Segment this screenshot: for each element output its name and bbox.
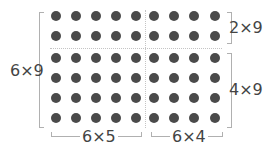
dot	[131, 31, 141, 41]
dot	[149, 113, 159, 123]
dot	[149, 73, 159, 83]
label-6x5: 6×5	[80, 129, 118, 145]
dot	[51, 53, 61, 63]
dot	[111, 93, 121, 103]
label-6x9: 6×9	[10, 63, 44, 79]
dot	[189, 113, 199, 123]
dot	[131, 11, 141, 21]
dot	[210, 113, 220, 123]
dot	[111, 31, 121, 41]
dot	[149, 31, 159, 41]
dot	[51, 31, 61, 41]
dot	[111, 73, 121, 83]
dot	[189, 53, 199, 63]
dot	[51, 11, 61, 21]
dot	[210, 31, 220, 41]
dot	[131, 53, 141, 63]
dot	[91, 113, 101, 123]
dot	[189, 31, 199, 41]
dot	[91, 31, 101, 41]
dot	[169, 93, 179, 103]
dot	[111, 11, 121, 21]
dot	[210, 11, 220, 21]
horizontal-split-line	[50, 48, 222, 49]
dot	[169, 73, 179, 83]
label-6x4: 6×4	[170, 129, 208, 145]
dot	[91, 11, 101, 21]
dot	[71, 11, 81, 21]
dot	[51, 113, 61, 123]
dot	[210, 73, 220, 83]
dot	[149, 53, 159, 63]
dot	[131, 93, 141, 103]
dot	[189, 73, 199, 83]
label-2x9: 2×9	[229, 20, 263, 36]
dot	[169, 11, 179, 21]
dot	[51, 73, 61, 83]
dot	[91, 53, 101, 63]
dot	[189, 11, 199, 21]
dot	[111, 53, 121, 63]
dot	[91, 93, 101, 103]
dot	[91, 73, 101, 83]
dot	[71, 53, 81, 63]
dot	[169, 53, 179, 63]
dot	[71, 93, 81, 103]
dot	[149, 93, 159, 103]
vertical-split-line	[145, 10, 146, 128]
dot	[210, 53, 220, 63]
dot	[71, 31, 81, 41]
dot	[71, 73, 81, 83]
dot	[210, 93, 220, 103]
dot	[149, 11, 159, 21]
dot	[111, 113, 121, 123]
dot	[169, 31, 179, 41]
dot	[71, 113, 81, 123]
dot	[131, 113, 141, 123]
dot	[51, 93, 61, 103]
dot	[169, 113, 179, 123]
dot	[189, 93, 199, 103]
dot	[131, 73, 141, 83]
label-4x9: 4×9	[229, 82, 263, 98]
